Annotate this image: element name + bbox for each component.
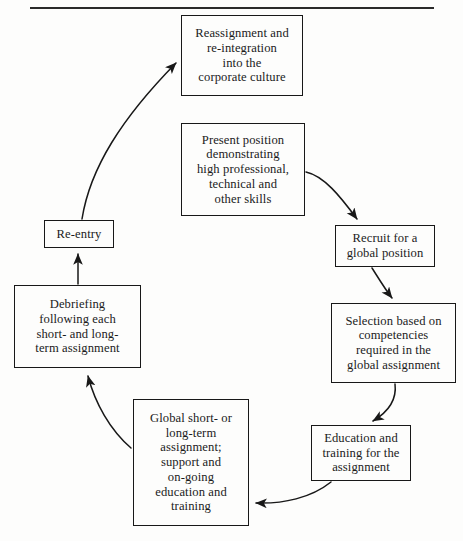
node-debriefing-label: Debriefing following each short- and lon… (18, 297, 137, 356)
node-recruit-label: Recruit for a global position (339, 231, 431, 260)
edge-education-to-global (256, 482, 331, 503)
edge-present-to-recruit (306, 172, 357, 219)
node-reassignment: Reassignment and re-integration into the… (181, 15, 303, 96)
node-global-assignment: Global short- or long-term assignment; s… (133, 399, 249, 526)
node-recruit: Recruit for a global position (335, 225, 435, 267)
node-present-position: Present position demonstrating high prof… (181, 123, 305, 216)
node-reentry-label: Re-entry (48, 227, 110, 242)
edge-selection-to-education (373, 384, 395, 421)
node-selection: Selection based on competencies required… (331, 303, 456, 383)
edge-recruit-to-selection (372, 268, 392, 298)
node-reassignment-label: Reassignment and re-integration into the… (185, 26, 299, 85)
node-global-assignment-label: Global short- or long-term assignment; s… (137, 411, 245, 514)
node-education-label: Education and training for the assignmen… (315, 431, 407, 475)
node-reentry: Re-entry (44, 220, 114, 248)
node-present-position-label: Present position demonstrating high prof… (185, 133, 301, 207)
node-debriefing: Debriefing following each short- and lon… (14, 285, 141, 368)
node-selection-label: Selection based on competencies required… (335, 314, 452, 373)
node-education: Education and training for the assignmen… (311, 425, 411, 481)
diagram-page: Reassignment and re-integration into the… (0, 0, 463, 541)
edge-global-to-debriefing (88, 376, 131, 448)
edge-reentry-to-reassignment (82, 63, 176, 219)
